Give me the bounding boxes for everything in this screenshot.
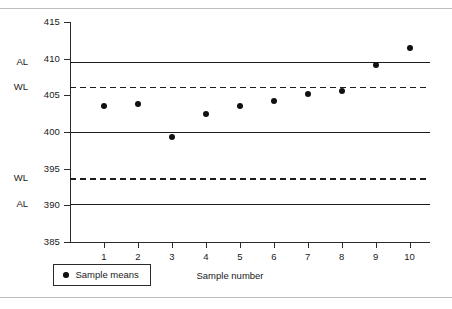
- lower-warning-limit-label: WL: [2, 173, 28, 183]
- x-axis-tick: [104, 242, 105, 248]
- x-axis-title: Sample number: [150, 271, 310, 281]
- lower-action-limit-label: AL: [2, 199, 28, 209]
- data-point: [203, 111, 209, 117]
- lower-warning-limit: [70, 178, 430, 180]
- sample-means-marker-icon: [63, 272, 69, 278]
- x-axis-tick-label: 5: [229, 252, 251, 262]
- y-axis-tick-label: 390: [28, 200, 60, 210]
- data-point: [101, 103, 107, 109]
- x-axis-tick-label: 3: [161, 252, 183, 262]
- x-axis-tick-label: 8: [331, 252, 353, 262]
- x-axis-tick-label: 6: [263, 252, 285, 262]
- data-point: [373, 62, 379, 68]
- upper-warning-limit-label: WL: [2, 82, 28, 92]
- x-axis-tick: [274, 242, 275, 248]
- x-axis-tick: [410, 242, 411, 248]
- top-divider-rule: [0, 8, 452, 9]
- y-axis-tick-label-text: 400: [30, 127, 60, 137]
- x-axis-tick: [376, 242, 377, 248]
- center-line: [70, 132, 430, 133]
- x-axis-tick-label: 9: [365, 252, 387, 262]
- y-axis-tick-label-text: 395: [30, 164, 60, 174]
- data-point: [169, 134, 175, 140]
- upper-warning-limit: [70, 87, 430, 89]
- data-point: [271, 98, 277, 104]
- y-axis-tick: [64, 22, 70, 23]
- data-point: [237, 103, 243, 109]
- y-axis-tick-label-text: 390: [30, 200, 60, 210]
- y-axis-tick-label: 415: [28, 17, 60, 27]
- y-axis-tick-label: 400: [28, 127, 60, 137]
- x-axis-tick-label: 1: [93, 252, 115, 262]
- y-axis-tick-label: 405: [28, 90, 60, 100]
- y-axis-tick-label-text: 385: [30, 237, 60, 247]
- y-axis-tick-label-text: 410: [30, 54, 60, 64]
- x-axis-tick-label: 2: [127, 252, 149, 262]
- y-axis-tick: [64, 205, 70, 206]
- y-axis-tick: [64, 242, 70, 243]
- y-axis-tick: [64, 59, 70, 60]
- x-axis-tick: [206, 242, 207, 248]
- x-axis-tick: [172, 242, 173, 248]
- lower-action-limit: [70, 204, 430, 205]
- x-axis-tick: [138, 242, 139, 248]
- legend-box[interactable]: Sample means: [53, 264, 151, 286]
- upper-action-limit-label: AL: [2, 57, 28, 67]
- data-point: [305, 91, 311, 97]
- x-axis-tick-label: 7: [297, 252, 319, 262]
- x-axis-tick: [308, 242, 309, 248]
- control-chart-figure: 385390395400405410415 12345678910 ALWLWL…: [0, 0, 452, 309]
- x-axis-tick: [240, 242, 241, 248]
- x-axis-tick: [342, 242, 343, 248]
- data-point: [135, 101, 141, 107]
- y-axis-tick: [64, 95, 70, 96]
- y-axis-tick-label: 410: [28, 54, 60, 64]
- x-axis-tick-label: 10: [399, 252, 421, 262]
- y-axis-tick-label-text: 415: [30, 17, 60, 27]
- y-axis-tick-label: 395: [28, 164, 60, 174]
- data-point: [407, 45, 413, 51]
- x-axis-tick-label: 4: [195, 252, 217, 262]
- y-axis-tick-label-text: 405: [30, 90, 60, 100]
- bottom-divider-rule: [0, 297, 452, 298]
- y-axis-tick: [64, 169, 70, 170]
- legend-label-sample-means: Sample means: [76, 270, 139, 280]
- data-point: [339, 88, 345, 94]
- y-axis-tick-label: 385: [28, 237, 60, 247]
